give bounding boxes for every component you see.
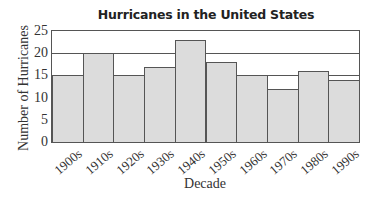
x-tick-label: 1920s xyxy=(113,146,147,178)
x-tick-label: 1930s xyxy=(144,146,178,178)
y-tick-label: 0 xyxy=(41,134,48,150)
y-tick-label: 20 xyxy=(34,45,48,61)
bar-1920s xyxy=(113,75,145,142)
x-tick-label: 1970s xyxy=(266,146,300,178)
bar-1960s xyxy=(236,75,268,142)
x-tick-label: 1900s xyxy=(52,146,86,178)
x-tick-label: 1990s xyxy=(328,146,362,178)
x-tick-label: 1910s xyxy=(82,146,116,178)
x-axis-label: Decade xyxy=(184,176,226,192)
x-tick-label: 1940s xyxy=(174,146,208,178)
y-tick-label: 15 xyxy=(34,67,48,83)
y-axis-label: Number of Hurricanes xyxy=(16,25,32,151)
bar-1940s xyxy=(175,40,207,142)
y-tick-label: 5 xyxy=(41,112,48,128)
y-tick-label: 10 xyxy=(34,90,48,106)
bar-1910s xyxy=(83,53,115,142)
y-tick-label: 25 xyxy=(34,23,48,39)
chart-title: Hurricanes in the United States xyxy=(0,7,374,22)
bar-1950s xyxy=(206,62,238,142)
bar-1980s xyxy=(298,71,330,142)
x-tick-label: 1960s xyxy=(236,146,270,178)
bar-1900s xyxy=(52,75,84,142)
x-tick-label: 1980s xyxy=(297,146,331,178)
x-tick-label: 1950s xyxy=(205,146,239,178)
plot-area xyxy=(51,30,360,143)
bar-1990s xyxy=(328,80,360,142)
bar-1970s xyxy=(267,89,299,142)
bar-1930s xyxy=(144,67,176,142)
